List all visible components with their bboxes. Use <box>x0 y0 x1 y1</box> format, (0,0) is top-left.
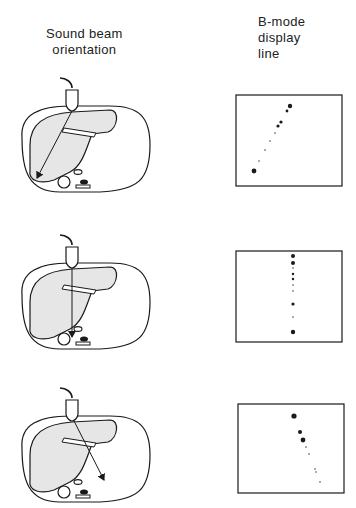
diagram-canvas <box>0 0 356 508</box>
panel-oblique-right <box>22 388 150 502</box>
b-mode-display-3 <box>238 404 344 493</box>
b-mode-display-2 <box>236 251 342 342</box>
panel-vertical <box>22 235 150 349</box>
b-mode-display-1 <box>236 95 342 186</box>
panel-oblique-left <box>22 78 150 192</box>
